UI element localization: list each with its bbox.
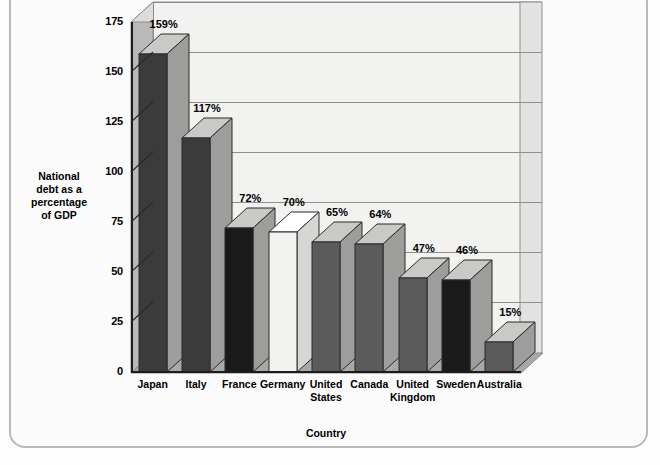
y-tick-125 [131,102,155,124]
x-category-line-1: States [291,391,361,404]
y-tick-100 [131,152,155,174]
y-tick-label-150: 150 [83,65,123,77]
bar-value-label-australia: 15% [475,306,545,318]
x-category-australia: Australia [464,378,534,391]
y-axis-title: Nationaldebt as apercentageof GDP [18,170,100,222]
y-tick-label-0: 0 [83,365,123,377]
y-axis-title-line-3: of GDP [18,209,100,222]
y-tick-75 [131,202,155,224]
bar-chart: 159%117%72%70%65%64%47%46%15% 0255075100… [0,0,660,465]
bar-australia[interactable] [485,322,537,374]
x-axis-title: Country [131,427,521,439]
x-axis-line [131,371,521,373]
bar-value-label-sweden: 46% [432,244,502,256]
y-axis-title-line-0: National [18,170,100,183]
y-tick-label-25: 25 [83,315,123,327]
x-category-line-0: Australia [464,378,534,391]
y-tick-25 [131,302,155,324]
gridline-150 [154,52,542,53]
x-category-line-1: Kingdom [378,391,448,404]
y-tick-label-50: 50 [83,265,123,277]
y-tick-50 [131,252,155,274]
y-tick-150 [131,52,155,74]
bar-value-label-japan: 159% [129,18,199,30]
y-axis-title-line-1: debt as a [18,183,100,196]
bar-value-label-canada: 64% [345,208,415,220]
bar-value-label-italy: 117% [172,102,242,114]
y-tick-label-175: 175 [83,15,123,27]
y-tick-label-125: 125 [83,115,123,127]
y-axis-title-line-2: percentage [18,196,100,209]
